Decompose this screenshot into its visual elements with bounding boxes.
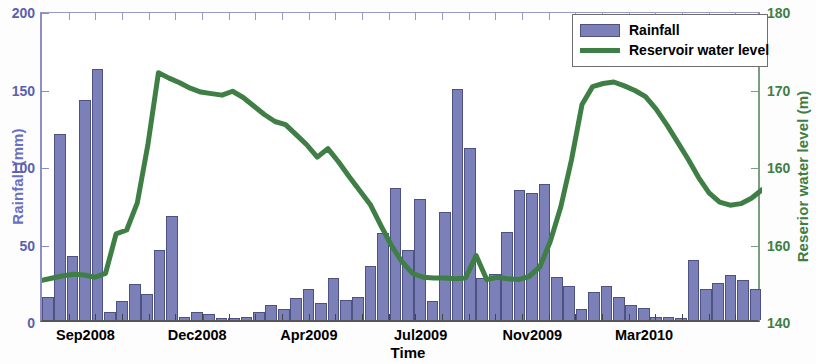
rainfall-bar — [228, 318, 240, 320]
x-axis-tick-mark — [735, 314, 736, 320]
top-axis-tick-mark — [255, 13, 256, 20]
rainfall-bar — [365, 266, 377, 320]
x-axis-tick-mark — [549, 314, 550, 320]
top-axis-tick-mark — [469, 13, 470, 20]
x-axis-tick-mark — [709, 314, 710, 320]
x-axis-tick-mark — [389, 314, 390, 320]
reservoir-line-swatch-icon — [580, 48, 620, 53]
top-axis-tick-mark — [495, 13, 496, 20]
rainfall-bar — [712, 283, 724, 320]
rainfall-bar — [278, 309, 290, 320]
x-axis-tick-label: Sep2008 — [56, 327, 115, 343]
x-axis-tick-mark — [149, 314, 150, 320]
top-axis-tick-mark — [202, 13, 203, 20]
x-axis-tick-mark — [202, 314, 203, 320]
y-axis-left-tick-label: 50 — [19, 239, 35, 253]
y-axis-right-tick-label: 170 — [767, 84, 790, 98]
rainfall-bar — [414, 199, 426, 320]
x-axis-tick-label: Mar2010 — [615, 327, 673, 343]
top-axis-tick-mark — [309, 13, 310, 20]
rainfall-bar — [216, 318, 228, 320]
x-axis-tick-mark — [495, 314, 496, 320]
top-axis-tick-mark — [95, 13, 96, 20]
y-axis-left-tick-mark — [42, 91, 49, 92]
y-axis-left-tick-label: 0 — [27, 316, 35, 330]
y-axis-right-tick-label: 140 — [767, 316, 790, 330]
x-axis-tick-mark — [309, 314, 310, 320]
rainfall-bar — [67, 256, 79, 320]
rainfall-bar — [166, 216, 178, 320]
top-axis-tick-mark — [69, 13, 70, 20]
chart-figure: Rainfall (mm) Reserior water level (m) T… — [0, 0, 816, 364]
x-axis-tick-mark — [629, 314, 630, 320]
rainfall-bar — [675, 318, 687, 320]
x-axis-tick-mark — [469, 314, 470, 320]
y-axis-left-title: Rainfall (mm) — [9, 97, 26, 257]
y-axis-right-tick-label: 160 — [767, 161, 790, 175]
rainfall-bar — [464, 148, 476, 320]
y-axis-left-tick-mark — [42, 13, 49, 14]
rainfall-bar — [439, 212, 451, 321]
rainfall-bar — [290, 298, 302, 320]
legend-item-rainfall: Rainfall — [580, 20, 760, 40]
rainfall-bar — [737, 280, 749, 320]
x-axis-tick-label: Nov2009 — [503, 327, 563, 343]
x-axis-tick-mark — [335, 314, 336, 320]
top-axis-tick-mark — [335, 13, 336, 20]
rainfall-bar — [452, 89, 464, 320]
y-axis-right-tick-label: 160 — [767, 239, 790, 253]
rainfall-bar — [141, 294, 153, 320]
x-axis-tick-label: Dec2008 — [168, 327, 227, 343]
rainfall-bar — [377, 233, 389, 320]
x-axis-tick-mark — [442, 314, 443, 320]
x-axis-tick-mark — [175, 314, 176, 320]
rainfall-bar — [154, 250, 166, 320]
rainfall-bar — [241, 317, 253, 320]
rainfall-bar — [551, 277, 563, 320]
x-axis-tick-mark — [655, 314, 656, 320]
rainfall-bar — [663, 317, 675, 320]
x-axis-tick-label: Apr2009 — [280, 327, 337, 343]
rainfall-bar — [390, 188, 402, 320]
top-axis-tick-mark — [415, 13, 416, 20]
x-axis-tick-mark — [682, 314, 683, 320]
y-axis-left-tick-label: 100 — [12, 161, 35, 175]
top-axis-tick-mark — [175, 13, 176, 20]
rainfall-bar — [315, 303, 327, 320]
rainfall-bar — [625, 305, 637, 321]
x-axis-tick-mark — [282, 314, 283, 320]
y-axis-left-tick-label: 200 — [12, 6, 35, 20]
rainfall-bar — [576, 309, 588, 320]
x-axis-tick-label: Jul2009 — [394, 327, 447, 343]
rainfall-bar — [750, 289, 762, 320]
rainfall-bar — [42, 297, 54, 320]
rainfall-bar — [563, 286, 575, 320]
x-axis-tick-mark — [229, 314, 230, 320]
rainfall-bar — [92, 69, 104, 320]
rainfall-bar — [79, 100, 91, 320]
rainfall-swatch-icon — [580, 24, 620, 37]
rainfall-bar — [402, 250, 414, 320]
rainfall-bar — [203, 314, 215, 320]
y-axis-right-tick-mark — [751, 168, 758, 169]
rainfall-bar — [328, 278, 340, 320]
top-axis-tick-mark — [282, 13, 283, 20]
rainfall-bar — [427, 301, 439, 320]
top-axis-tick-mark — [229, 13, 230, 20]
y-axis-right-tick-label: 180 — [767, 6, 790, 20]
x-axis-tick-mark — [522, 314, 523, 320]
x-axis-tick-mark — [95, 314, 96, 320]
y-axis-left-tick-mark — [42, 168, 49, 169]
reservoir-water-level-line — [42, 73, 762, 281]
x-axis-tick-mark — [602, 314, 603, 320]
rainfall-bar — [129, 284, 141, 320]
y-axis-left-tick-label: 150 — [12, 84, 35, 98]
top-axis-tick-mark — [122, 13, 123, 20]
legend-label-reservoir: Reservoir water level — [629, 42, 769, 58]
rainfall-bar — [265, 305, 277, 321]
rainfall-bar — [539, 184, 551, 320]
y-axis-left-tick-mark — [42, 246, 49, 247]
x-axis-title: Time — [0, 344, 816, 361]
rainfall-bar — [588, 292, 600, 320]
y-axis-right-tick-mark — [751, 91, 758, 92]
